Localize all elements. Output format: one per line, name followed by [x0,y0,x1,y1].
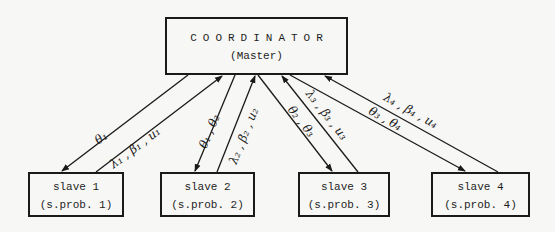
slave-name: slave 1 [30,181,122,193]
slave-subproblem: (s.prob. 3) [300,199,388,211]
slave-box-2: slave 2 (s.prob. 2) [160,172,255,217]
slave-box-4: slave 4 (s.prob. 4) [431,172,530,217]
coordinator-subtitle: (Master) [167,50,346,62]
slave-name: slave 4 [433,181,528,193]
slave-subproblem: (s.prob. 1) [30,199,122,211]
slave-subproblem: (s.prob. 4) [433,199,528,211]
slave-box-1: slave 1 (s.prob. 1) [28,172,124,217]
slave-subproblem: (s.prob. 2) [162,199,253,211]
slave-name: slave 3 [300,181,388,193]
slave-box-3: slave 3 (s.prob. 3) [298,172,390,217]
arrow-up-slave-4 [325,76,498,172]
coordinator-box: COORDINATOR (Master) [165,17,348,75]
coordinator-title: COORDINATOR [167,32,346,44]
arrow-up-slave-3 [282,76,358,172]
slave-name: slave 2 [162,181,253,193]
